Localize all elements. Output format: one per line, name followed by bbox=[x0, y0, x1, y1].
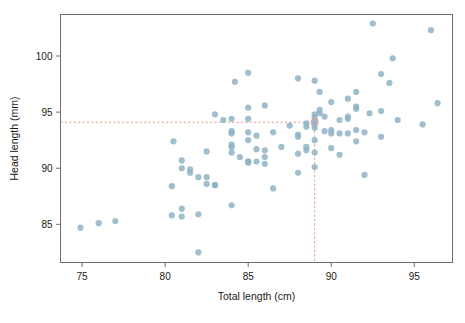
data-point bbox=[361, 172, 367, 178]
data-point bbox=[278, 144, 284, 150]
data-point bbox=[228, 116, 234, 122]
data-point bbox=[169, 212, 175, 218]
data-point bbox=[253, 158, 259, 164]
data-point bbox=[77, 225, 83, 231]
y-axis-tick-label: 95 bbox=[41, 107, 53, 118]
data-point bbox=[179, 206, 185, 212]
data-point bbox=[295, 170, 301, 176]
data-point bbox=[204, 148, 210, 154]
data-point bbox=[195, 249, 201, 255]
data-point bbox=[386, 80, 392, 86]
data-point bbox=[245, 116, 251, 122]
data-point bbox=[169, 183, 175, 189]
data-point bbox=[390, 55, 396, 61]
data-point bbox=[228, 144, 234, 150]
x-axis-tick-label: 95 bbox=[409, 271, 421, 282]
data-point bbox=[228, 130, 234, 136]
data-point bbox=[336, 117, 342, 123]
data-point bbox=[328, 130, 334, 136]
x-axis-tick-label: 80 bbox=[160, 271, 172, 282]
x-axis-tick-label: 90 bbox=[326, 271, 338, 282]
data-point bbox=[353, 138, 359, 144]
data-point bbox=[220, 117, 226, 123]
data-point bbox=[353, 89, 359, 95]
data-point bbox=[253, 146, 259, 152]
data-point bbox=[212, 111, 218, 117]
data-point bbox=[322, 114, 328, 120]
data-point bbox=[312, 164, 318, 170]
data-point bbox=[378, 71, 384, 77]
data-point bbox=[336, 130, 342, 136]
data-point bbox=[378, 134, 384, 140]
data-point bbox=[322, 128, 328, 134]
data-point bbox=[232, 79, 238, 85]
data-point bbox=[395, 117, 401, 123]
data-point bbox=[361, 129, 367, 135]
data-point bbox=[303, 147, 309, 153]
data-point bbox=[312, 78, 318, 84]
data-point bbox=[262, 102, 268, 108]
data-point bbox=[195, 211, 201, 217]
data-point bbox=[262, 161, 268, 167]
x-axis-tick-label: 75 bbox=[77, 271, 89, 282]
data-point bbox=[353, 127, 359, 133]
data-point bbox=[179, 213, 185, 219]
data-point bbox=[366, 110, 372, 116]
y-axis-tick-label: 85 bbox=[41, 219, 53, 230]
y-axis-tick-label: 100 bbox=[36, 51, 53, 62]
data-point bbox=[228, 149, 234, 155]
data-point bbox=[170, 138, 176, 144]
data-point bbox=[237, 154, 243, 160]
data-point bbox=[179, 157, 185, 163]
data-point bbox=[295, 75, 301, 81]
data-point bbox=[378, 108, 384, 114]
data-point bbox=[345, 116, 351, 122]
data-point bbox=[287, 123, 293, 129]
data-point bbox=[428, 27, 434, 33]
data-point bbox=[195, 174, 201, 180]
data-point bbox=[262, 154, 268, 160]
data-point bbox=[312, 137, 318, 143]
data-point bbox=[204, 181, 210, 187]
y-axis-tick-label: 90 bbox=[41, 163, 53, 174]
data-point bbox=[370, 20, 376, 26]
data-point bbox=[253, 133, 259, 139]
data-point bbox=[270, 185, 276, 191]
data-point bbox=[245, 70, 251, 76]
data-point bbox=[295, 151, 301, 157]
data-point bbox=[204, 174, 210, 180]
data-point bbox=[312, 149, 318, 155]
data-point bbox=[434, 100, 440, 106]
data-point bbox=[179, 165, 185, 171]
data-point bbox=[262, 147, 268, 153]
plot-canvas: 7580859095859095100Total length (cm)Head… bbox=[0, 0, 465, 323]
x-axis-title: Total length (cm) bbox=[218, 290, 296, 302]
data-point bbox=[112, 218, 118, 224]
data-point bbox=[328, 99, 334, 105]
data-point bbox=[420, 121, 426, 127]
data-point bbox=[345, 130, 351, 136]
data-point bbox=[245, 105, 251, 111]
data-point bbox=[96, 220, 102, 226]
data-point bbox=[187, 170, 193, 176]
data-point bbox=[317, 89, 323, 95]
data-point bbox=[245, 129, 251, 135]
data-point bbox=[295, 134, 301, 140]
x-axis-tick-label: 85 bbox=[243, 271, 255, 282]
data-point bbox=[345, 96, 351, 102]
data-point bbox=[228, 202, 234, 208]
data-point bbox=[328, 145, 334, 151]
data-point bbox=[270, 129, 276, 135]
data-point bbox=[336, 152, 342, 158]
y-axis-title: Head length (mm) bbox=[8, 96, 20, 180]
data-point bbox=[353, 106, 359, 112]
data-point bbox=[245, 137, 251, 143]
data-point bbox=[245, 160, 251, 166]
scatter-plot-figure: 7580859095859095100Total length (cm)Head… bbox=[0, 0, 465, 323]
data-point bbox=[212, 182, 218, 188]
data-point bbox=[303, 124, 309, 130]
